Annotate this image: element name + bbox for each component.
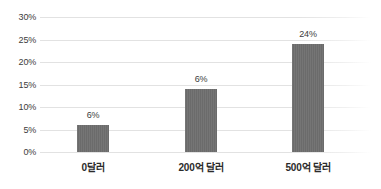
bar-value-label: 6% (195, 74, 208, 84)
x-axis-category-label: 0달러 (82, 159, 105, 174)
bar (292, 44, 324, 152)
x-axis-category-label: 500억 달러 (285, 159, 330, 174)
bar (185, 89, 217, 152)
bar-value-label: 24% (299, 29, 316, 39)
bar (77, 125, 109, 152)
x-axis-category-label: 200억 달러 (178, 159, 223, 174)
plot-area: 6%0달러6%200억 달러24%500억 달러 (0, 0, 381, 189)
bar-chart: 0%5%10%15%20%25%30% 6%0달러6%200억 달러24%500… (0, 0, 381, 189)
bar-value-label: 6% (87, 110, 100, 120)
